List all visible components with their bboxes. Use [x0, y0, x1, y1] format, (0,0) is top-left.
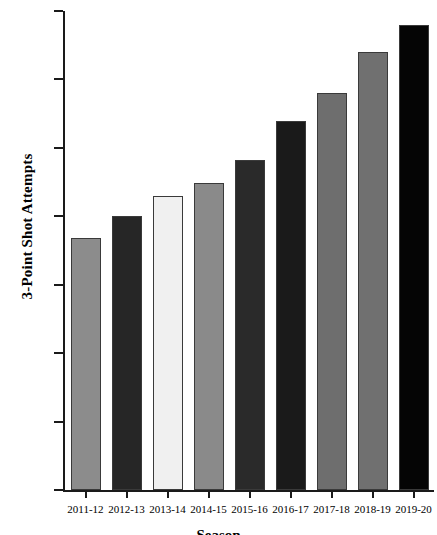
bar-slot — [270, 11, 311, 490]
x-axis-tick-label: 2013-14 — [147, 503, 188, 515]
bar-slot — [147, 11, 188, 490]
x-axis-tick-label: 2018-19 — [352, 503, 393, 515]
bar-slot — [311, 11, 352, 490]
x-axis-tick-label: 2011-12 — [65, 503, 106, 515]
bar[interactable] — [112, 216, 142, 490]
bar[interactable] — [399, 25, 429, 490]
y-axis-tick — [54, 215, 63, 217]
x-axis-tick — [208, 490, 210, 498]
bar-slot — [65, 11, 106, 490]
bar-slot — [188, 11, 229, 490]
x-axis-title: Season — [0, 525, 437, 535]
bar[interactable] — [71, 238, 101, 490]
x-axis-tick — [413, 490, 415, 498]
bar-chart: 3-Point Shot Attempts 05101520253035 201… — [0, 0, 437, 535]
bar[interactable] — [235, 160, 265, 490]
x-axis-tick — [290, 490, 292, 498]
x-axis-tick — [331, 490, 333, 498]
y-axis-tick — [54, 489, 63, 491]
y-axis-tick — [54, 284, 63, 286]
bar-slot — [352, 11, 393, 490]
x-axis-tick-label: 2014-15 — [188, 503, 229, 515]
y-axis-tick — [54, 421, 63, 423]
x-axis-tick-label: 2019-20 — [393, 503, 434, 515]
x-axis-tick — [85, 490, 87, 498]
x-axis-tick — [249, 490, 251, 498]
x-axis-tick — [126, 490, 128, 498]
x-axis-tick-label: 2016-17 — [270, 503, 311, 515]
y-axis-tick — [54, 78, 63, 80]
bar-slot — [106, 11, 147, 490]
bar-slot — [393, 11, 434, 490]
bar[interactable] — [317, 93, 347, 490]
bar[interactable] — [276, 121, 306, 491]
plot-area — [63, 11, 434, 492]
x-axis-tick-label: 2012-13 — [106, 503, 147, 515]
x-axis-tick-label: 2017-18 — [311, 503, 352, 515]
bar[interactable] — [194, 183, 224, 490]
x-axis-tick — [167, 490, 169, 498]
y-axis-tick — [54, 147, 63, 149]
y-axis-title: 3-Point Shot Attempts — [19, 107, 36, 347]
bar[interactable] — [358, 52, 388, 490]
y-axis-tick — [54, 10, 63, 12]
bar[interactable] — [153, 196, 183, 490]
y-axis-tick — [54, 352, 63, 354]
x-axis-tick-label: 2015-16 — [229, 503, 270, 515]
x-axis-tick-labels: 2011-122012-132013-142014-152015-162016-… — [65, 503, 434, 515]
x-axis-tick — [372, 490, 374, 498]
bar-series — [65, 11, 434, 490]
bar-slot — [229, 11, 270, 490]
